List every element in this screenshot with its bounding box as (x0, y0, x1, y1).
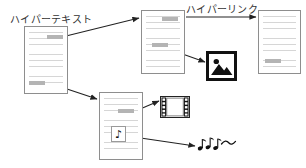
music-note-icon: ♪ (115, 129, 122, 140)
text-line (104, 104, 138, 105)
text-line (146, 28, 180, 29)
text-line (104, 148, 138, 149)
text-line (29, 32, 63, 33)
diagram-canvas: ハイパーテキスト ハイパーリンク (0, 0, 306, 168)
image-media-icon[interactable] (206, 51, 237, 81)
text-line (29, 60, 63, 61)
audio-output-notes (197, 135, 237, 153)
third-document[interactable] (258, 10, 301, 74)
text-line (263, 44, 296, 45)
text-line (146, 60, 180, 61)
second-document[interactable] (141, 10, 185, 74)
anchor-to-document-4[interactable] (29, 81, 45, 85)
text-line (104, 98, 138, 99)
video-media-icon[interactable] (160, 96, 190, 118)
text-line (29, 44, 63, 45)
text-line (146, 22, 180, 23)
text-line (263, 50, 296, 51)
label-hyperlink: ハイパーリンク (186, 1, 258, 16)
text-line (29, 66, 63, 67)
text-line (263, 38, 296, 39)
film-strip-glyph (161, 97, 189, 117)
anchor-to-image[interactable] (152, 43, 168, 47)
text-line (263, 16, 296, 17)
text-line (146, 50, 180, 51)
anchor-to-document-2[interactable] (47, 35, 63, 39)
anchor-to-video[interactable] (118, 109, 134, 113)
text-line (146, 66, 180, 67)
audio-embed-icon[interactable]: ♪ (111, 126, 126, 142)
text-line (29, 76, 63, 77)
text-line (104, 142, 138, 143)
text-line (263, 66, 296, 67)
anchor-plain[interactable] (265, 59, 281, 63)
text-line (104, 120, 138, 121)
text-line (29, 54, 63, 55)
source-document[interactable] (24, 26, 68, 94)
label-hypertext: ハイパーテキスト (10, 11, 92, 26)
text-line (263, 22, 296, 23)
text-line (263, 28, 296, 29)
picture-glyph (209, 54, 234, 78)
musical-notes-wave-glyph (197, 135, 237, 153)
text-line (146, 38, 180, 39)
anchor-to-document-3[interactable] (162, 17, 178, 21)
